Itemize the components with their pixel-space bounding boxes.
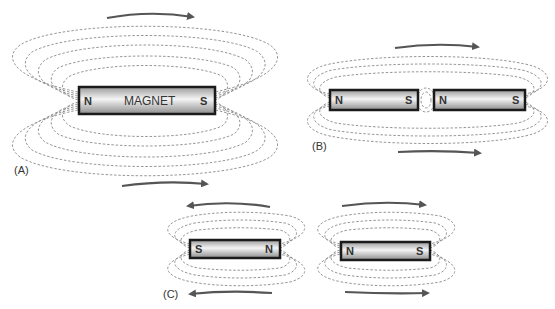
pole-n: N <box>265 243 273 255</box>
arrow-bottom-right-icon <box>122 182 207 186</box>
panel-label-b: (B) <box>312 140 327 152</box>
arrow-top-right-icon <box>342 203 425 206</box>
pole-s: S <box>416 245 423 257</box>
panel-label-c: (C) <box>163 288 178 300</box>
pole-n: N <box>439 94 447 106</box>
pole-s: S <box>405 94 412 106</box>
arrow-bottom-right-icon <box>345 292 428 293</box>
pole-n: N <box>335 94 343 106</box>
arrow-bottom-left-icon <box>190 292 272 294</box>
panel-label-a: (A) <box>14 164 29 176</box>
arrow-top-right-icon <box>107 14 193 18</box>
magnet-label: MAGNET <box>124 94 176 108</box>
arrow-top-right-icon <box>395 45 478 48</box>
arrow-top-left-icon <box>188 203 270 207</box>
panel-c: S N N S (C) <box>163 203 455 300</box>
panel-a: N MAGNET S (A) <box>12 14 277 186</box>
panel-b: N S N S (B) <box>308 45 548 153</box>
pole-n: N <box>346 245 354 257</box>
pole-n: N <box>84 95 92 107</box>
arrow-bottom-right-icon <box>398 151 480 153</box>
pole-s: S <box>200 95 207 107</box>
pole-s: S <box>195 243 202 255</box>
magnetic-field-diagram: N MAGNET S (A) N S N S (B) <box>0 0 555 309</box>
pole-s: S <box>512 94 519 106</box>
